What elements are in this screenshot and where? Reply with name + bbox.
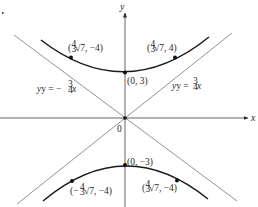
svg-text:yy = −: yy = − [36,84,61,94]
point-label-lower-right: ( 4 3 √7, −4) [142,179,177,195]
vertex-upper-label: (0, 3) [127,76,148,87]
svg-text:x: x [71,84,77,94]
hyperbola-diagram: y x 0 (0, 3) (0, −3) yy = − 3 4 x yy = 3… [0,0,258,207]
vertex-lower-label: (0, −3) [127,157,153,168]
stray-mark [2,12,4,14]
point-upper-left [69,56,73,60]
point-lower-left [70,179,74,183]
origin-label: 0 [117,124,122,134]
svg-text:√7, 4): √7, 4) [154,43,177,54]
svg-text:√7, −4): √7, −4) [84,186,112,197]
origin-point [123,116,127,120]
x-axis-label: x [250,112,256,123]
hyperbola-lower-branch [43,166,208,201]
asymptote-label-positive: yy = 3 4 x [171,76,202,92]
svg-text:√7, −4): √7, −4) [75,43,103,54]
asymptote-label-negative: yy = − 3 4 x [36,79,77,95]
svg-text:(−: (− [70,186,79,197]
point-label-lower-left: (− 4 3 √7, −4) [70,182,112,198]
svg-text:x: x [196,81,202,91]
point-upper-right [173,56,177,60]
svg-text:yy =: yy = [171,81,189,91]
point-label-upper-left: ( 4 3 √7, −4) [68,39,103,55]
point-label-upper-right: ( 4 3 √7, 4) [147,39,177,55]
y-axis-label: y [119,1,125,12]
svg-text:√7, −4): √7, −4) [149,183,177,194]
point-lower-right [175,179,179,183]
vertex-upper [123,71,127,75]
